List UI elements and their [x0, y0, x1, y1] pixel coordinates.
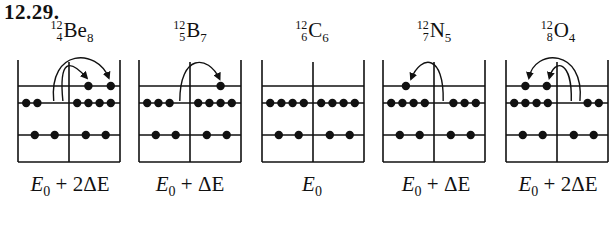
transition-arrow [549, 66, 571, 101]
transition-arrow [529, 58, 580, 101]
proton-nucleon-dot [521, 99, 529, 107]
neutron-nucleon-dot [82, 131, 90, 139]
proton-nucleon-dot [31, 131, 39, 139]
proton-nucleon-dot [300, 99, 308, 107]
proton-nucleon-dot [33, 99, 41, 107]
shell-panel-o [506, 60, 608, 162]
neutron-nucleon-dot [223, 131, 231, 139]
proton-nucleon-dot [510, 99, 518, 107]
proton-nucleon-dot [539, 131, 547, 139]
neutron-nucleon-dot [102, 131, 110, 139]
neutron-nucleon-dot [595, 99, 603, 107]
neutron-nucleon-dot [447, 131, 455, 139]
proton-nucleon-dot [543, 82, 551, 90]
energy-label-c: E0 [302, 172, 322, 197]
proton-nucleon-dot [519, 131, 527, 139]
neutron-nucleon-dot [328, 99, 336, 107]
neutron-nucleon-dot [84, 99, 92, 107]
proton-nucleon-dot [154, 99, 162, 107]
neutron-nucleon-dot [590, 131, 598, 139]
neutron-nucleon-dot [339, 99, 347, 107]
neutron-nucleon-dot [95, 99, 103, 107]
neutron-nucleon-dot [107, 82, 115, 90]
proton-nucleon-dot [409, 99, 417, 107]
neutron-nucleon-dot [570, 131, 578, 139]
neutron-nucleon-dot [228, 99, 236, 107]
shell-panel-b [139, 60, 241, 162]
energy-label-b: E0 + ΔE [156, 172, 225, 197]
proton-nucleon-dot [544, 99, 552, 107]
neutron-nucleon-dot [203, 131, 211, 139]
neutron-nucleon-dot [107, 99, 115, 107]
energy-label-o: E0 + 2ΔE [518, 172, 597, 197]
proton-nucleon-dot [275, 131, 283, 139]
neutron-nucleon-dot [346, 131, 354, 139]
neutron-nucleon-dot [583, 99, 591, 107]
neutron-nucleon-dot [326, 131, 334, 139]
proton-nucleon-dot [521, 82, 529, 90]
proton-nucleon-dot [165, 99, 173, 107]
proton-nucleon-dot [387, 99, 395, 107]
shell-panel-be [18, 60, 120, 162]
shell-panel-n [383, 60, 485, 162]
neutron-nucleon-dot [449, 99, 457, 107]
proton-nucleon-dot [152, 131, 160, 139]
neutron-nucleon-dot [472, 99, 480, 107]
neutron-nucleon-dot [194, 99, 202, 107]
energy-label-n: E0 + ΔE [402, 172, 471, 197]
neutron-nucleon-dot [467, 131, 475, 139]
proton-nucleon-dot [277, 99, 285, 107]
proton-nucleon-dot [288, 99, 296, 107]
proton-nucleon-dot [295, 131, 303, 139]
proton-nucleon-dot [398, 99, 406, 107]
proton-nucleon-dot [266, 99, 274, 107]
proton-nucleon-dot [22, 99, 30, 107]
transition-arrow [180, 62, 220, 101]
transition-arrow [62, 66, 87, 101]
proton-nucleon-dot [532, 99, 540, 107]
proton-nucleon-dot [416, 131, 424, 139]
proton-nucleon-dot [51, 131, 59, 139]
neutron-nucleon-dot [205, 99, 213, 107]
proton-nucleon-dot [402, 82, 410, 90]
neutron-nucleon-dot [216, 82, 224, 90]
neutron-nucleon-dot [73, 99, 81, 107]
proton-nucleon-dot [172, 131, 180, 139]
neutron-nucleon-dot [351, 99, 359, 107]
proton-nucleon-dot [421, 99, 429, 107]
neutron-nucleon-dot [460, 99, 468, 107]
proton-nucleon-dot [143, 99, 151, 107]
neutron-nucleon-dot [317, 99, 325, 107]
neutron-nucleon-dot [216, 99, 224, 107]
shell-panel-c [262, 60, 364, 162]
energy-label-be: E0 + 2ΔE [30, 172, 109, 197]
neutron-nucleon-dot [84, 82, 92, 90]
transition-arrow [411, 62, 443, 101]
proton-nucleon-dot [396, 131, 404, 139]
